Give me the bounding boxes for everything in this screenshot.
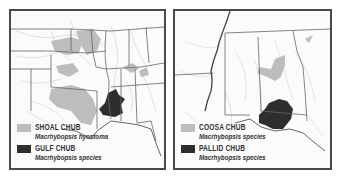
scientific-name: Macrhybopsis species <box>199 153 266 162</box>
legend-item-pallid-chub: PALLID CHUB Macrhybopsis species <box>181 144 284 162</box>
legend-item-gulf-chub: GULF CHUB Macrhybopsis species <box>17 144 129 162</box>
legend-item-shoal-chub: SHOAL CHUB Macrhybopsis hyostoma <box>17 123 129 141</box>
coosa-chub-range <box>257 35 313 81</box>
light-swatch <box>181 124 195 132</box>
legend-item-coosa-chub: COOSA CHUB Macrhybopsis species <box>181 123 284 141</box>
range-map-right: COOSA CHUB Macrhybopsis species PALLID C… <box>173 9 332 170</box>
common-name: COOSA CHUB <box>199 123 266 132</box>
mississippi-river <box>205 11 230 111</box>
common-name: GULF CHUB <box>35 144 102 153</box>
legend: SHOAL CHUB Macrhybopsis hyostoma GULF CH… <box>17 120 129 162</box>
common-name: SHOAL CHUB <box>35 123 108 132</box>
state-boundaries <box>175 29 330 121</box>
shoal-chub-range <box>49 29 149 125</box>
common-name: PALLID CHUB <box>199 144 266 153</box>
scientific-name: Macrhybopsis hyostoma <box>35 132 108 141</box>
scientific-name: Macrhybopsis species <box>199 132 266 141</box>
light-swatch <box>17 124 31 132</box>
dark-swatch <box>17 145 31 153</box>
legend: COOSA CHUB Macrhybopsis species PALLID C… <box>181 120 284 162</box>
dark-swatch <box>181 145 195 153</box>
scientific-name: Macrhybopsis species <box>35 153 102 162</box>
range-map-left: SHOAL CHUB Macrhybopsis hyostoma GULF CH… <box>9 9 166 170</box>
